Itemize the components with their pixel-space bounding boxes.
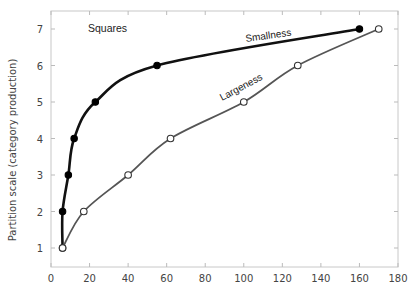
series-group: SmallnessLargeness [59, 26, 382, 252]
data-point [80, 208, 87, 215]
panel-label: Squares [88, 22, 127, 34]
x-tick-label: 0 [48, 273, 54, 284]
series-label-largeness: Largeness [218, 71, 264, 103]
x-tick-label: 180 [388, 273, 407, 284]
data-point [125, 172, 132, 179]
y-tick-label: 2 [37, 207, 43, 218]
plot-frame [51, 11, 398, 267]
x-tick-label: 140 [311, 273, 330, 284]
chart: 020406080100120140160180 1234567 Partiti… [0, 0, 418, 297]
y-axis-label: Partition scale (category production) [7, 59, 18, 242]
data-point [294, 62, 301, 69]
y-tick-label: 1 [37, 243, 43, 254]
y-tick-label: 6 [37, 61, 43, 72]
y-tick-label: 7 [37, 24, 43, 35]
data-point [59, 245, 66, 252]
data-point [154, 62, 160, 68]
x-tick-label: 120 [273, 273, 292, 284]
series-smallness [59, 26, 362, 251]
data-point [240, 99, 247, 106]
data-point [167, 135, 174, 142]
x-tick-label: 60 [160, 273, 173, 284]
data-point [59, 208, 65, 214]
x-tick-label: 80 [199, 273, 212, 284]
x-tick-label: 20 [83, 273, 96, 284]
data-point [375, 26, 382, 33]
x-tick-label: 100 [234, 273, 253, 284]
y-tick-label: 3 [37, 170, 43, 181]
y-tick-label: 4 [37, 134, 43, 145]
y-axis: 1234567 [37, 24, 398, 254]
data-point [65, 172, 71, 178]
data-point [71, 135, 77, 141]
data-point [92, 99, 98, 105]
x-tick-label: 160 [350, 273, 369, 284]
series-largeness [59, 26, 382, 252]
x-tick-label: 40 [122, 273, 135, 284]
y-tick-label: 5 [37, 97, 43, 108]
data-point [356, 26, 362, 32]
